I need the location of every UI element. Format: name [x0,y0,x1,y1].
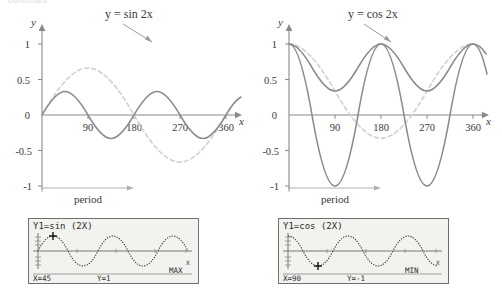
sine-ytick-1: 1 [25,39,30,50]
cosine-y-axis-label: y [277,16,283,28]
cosine-y-axis: y [277,16,292,190]
sine-x-axis-label: x [238,115,244,127]
calculator-screen-sine[interactable]: Y1=sin (2X) X MAX X=45 Y=1 [28,218,199,284]
cosine-y-ticks: 1 0.5 0 -0.5 -1 [262,39,289,192]
sine-ytick-0p5: 0.5 [17,75,30,86]
cosine-xtick-180: 180 [373,122,389,133]
sine-y-axis-label: y [30,16,36,28]
cosine-label-arrow [364,24,391,42]
calc-sine-y-readout: Y=1 [97,274,111,283]
graph-panel-sine: y = sin 2x y x 1 0.5 0 -0.5 -1 [0,0,251,212]
calc-sine-svg: Y1=sin (2X) X MAX X=45 Y=1 [29,219,198,283]
calc-sine-cursor[interactable] [49,232,57,240]
calc-sine-x-marker: X [186,259,190,266]
sine-y-axis: y [30,16,45,190]
sine-x-axis: x [42,112,244,127]
cosine-xtick-360: 360 [465,122,481,133]
cosine-xtick-270: 270 [419,122,435,133]
cosine-ytick-0: 0 [272,110,277,121]
sine-ytick-neg0p5: -0.5 [15,146,32,157]
sine-ytick-neg1: -1 [23,181,32,192]
sine-ytick-0: 0 [25,110,30,121]
cosine-curve-label: y = cos 2x [348,7,398,21]
calc-cosine-y-readout: Y=-1 [347,274,365,283]
sine-curve-label: y = sin 2x [105,7,153,21]
cosine-period-label: period [321,193,350,205]
calc-cosine-x-marker: X [436,259,440,266]
cosine-xtick-90: 90 [330,122,341,133]
cosine-ytick-neg0p5: -0.5 [262,146,279,157]
calc-cosine-header: Y1=cos (2X) [283,221,343,231]
sine-xtick-90: 90 [83,122,94,133]
sine-x-ticks: 90 180 270 360 [83,115,234,133]
sine-label-arrow [123,24,152,42]
cosine-ytick-1: 1 [272,39,277,50]
sine-graph: y = sin 2x y x 1 0.5 0 -0.5 -1 [0,0,251,212]
cosine-x-axis: x [289,112,491,127]
calculator-screen-cosine[interactable]: Y1=cos (2X) X MIN X=90 Y=-1 [278,218,449,284]
cosine-ytick-neg1: -1 [270,181,279,192]
sine-period-indicator: period [42,185,134,205]
calc-sine-header: Y1=sin (2X) [33,221,93,231]
calc-cosine-svg: Y1=cos (2X) X MIN X=90 Y=-1 [279,219,448,283]
sine-period-label: period [74,193,103,205]
graph-panel-cosine: y = cos 2x y x 1 0.5 0 -0.5 -1 [251,0,502,212]
sine-y-ticks: 1 0.5 0 -0.5 -1 [15,39,42,192]
cosine-ytick-0p5: 0.5 [264,75,277,86]
cosine-graph: y = cos 2x y x 1 0.5 0 -0.5 -1 [251,0,502,212]
cosine-x-axis-label: x [485,115,491,127]
calc-cosine-cursor[interactable] [314,262,322,270]
calc-cosine-x-readout: X=90 [283,274,302,283]
cosine-period-indicator: period [289,185,381,205]
calc-sine-x-readout: X=45 [33,274,51,283]
